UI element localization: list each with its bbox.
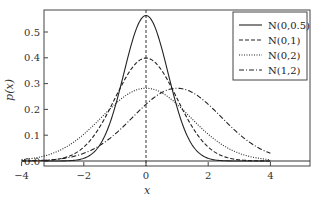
x-tick-label: −2 bbox=[76, 170, 91, 181]
legend-item-label: N(1,2) bbox=[268, 65, 301, 76]
x-tick-label: −4 bbox=[14, 170, 29, 181]
x-tick-label: 2 bbox=[205, 170, 211, 181]
y-tick-label: 0.5 bbox=[24, 27, 40, 38]
legend-item-label: N(0,1) bbox=[268, 35, 301, 46]
y-tick-label: 0.1 bbox=[24, 130, 40, 141]
x-axis-label: x bbox=[144, 184, 151, 197]
y-axis-label: p(x) bbox=[3, 79, 16, 101]
legend-item-label: N(0,0.5) bbox=[268, 20, 310, 31]
y-tick-label: 0.3 bbox=[24, 78, 40, 89]
y-tick-label: 0.4 bbox=[24, 52, 40, 63]
x-tick-label: 0 bbox=[143, 170, 149, 181]
legend: N(0,0.5)N(0,1)N(0,2)N(1,2) bbox=[233, 12, 310, 80]
chart: 0.00.10.20.30.40.5 −4−2024 x p(x) N(0,0.… bbox=[0, 0, 320, 200]
x-tick-label: 4 bbox=[267, 170, 273, 181]
y-tick-label: 0.2 bbox=[24, 104, 40, 115]
legend-item-label: N(0,2) bbox=[268, 50, 301, 61]
